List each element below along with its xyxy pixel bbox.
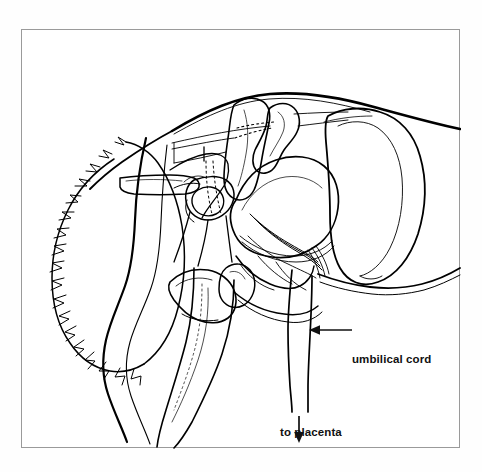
ischium-lower-bone [169, 270, 236, 323]
umbilical-cord-right-edge [308, 276, 312, 412]
cervix-sac-inner [230, 271, 245, 279]
pelvic-ligament-line-c [172, 138, 234, 149]
uterus-body-inner [242, 176, 322, 210]
abdomen-large-organ [325, 109, 424, 285]
lower-limb-front [157, 268, 194, 447]
flank-upper-line [324, 116, 372, 122]
lower-limb-back [174, 280, 234, 448]
to-placenta-label: to placenta [280, 426, 342, 438]
ischial-tuberosity-inner [270, 112, 284, 156]
spine-dorsal-line [172, 93, 460, 131]
sacrum-inner-line [238, 110, 248, 186]
abdomen-large-organ-inner [338, 122, 403, 276]
ischium-lower-notch [182, 314, 218, 321]
pelvis-limb-connector-a [198, 220, 208, 266]
umbilical-cord-arrow [307, 322, 353, 338]
ilium-shaft-inner [126, 180, 182, 182]
figure-frame: umbilical cord to placenta [21, 29, 460, 448]
hindlimb-inner-contour [126, 145, 167, 444]
birth-canal-outline [236, 256, 314, 288]
anatomy-line-drawing [22, 30, 461, 449]
to-placenta-arrow [291, 416, 307, 444]
ischial-tuberosity [253, 104, 300, 174]
pelvis-limb-connector-c [174, 212, 190, 262]
pelvic-ligament-line-a [294, 112, 348, 114]
abdomen-organ-tip [360, 276, 382, 279]
spine-dorsal-line-inner [174, 98, 370, 134]
soft-tissue-arc-a [258, 256, 292, 284]
figure-root: umbilical cord to placenta [0, 0, 482, 472]
umbilical-cord-left-edge [288, 270, 292, 412]
hindlimb-front-contour [103, 138, 146, 442]
lower-limb-inner-shade [174, 284, 202, 410]
ilium-shaft [120, 175, 199, 195]
umbilical-cord-label: umbilical cord [352, 353, 431, 365]
pelvic-ligament-upper [172, 126, 270, 143]
